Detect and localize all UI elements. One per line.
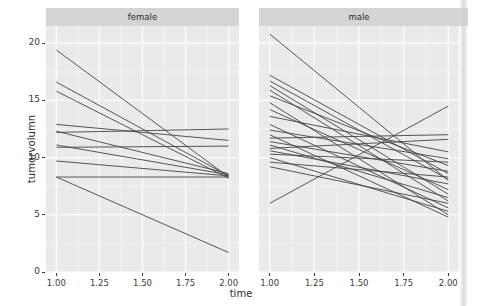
right-edge-artifact-strip — [459, 8, 468, 26]
y-tick-mark — [42, 157, 45, 158]
y-tick-label: 20 — [16, 38, 40, 47]
facet-strip-male: male — [259, 8, 459, 26]
x-tick-label: 2.00 — [214, 278, 244, 288]
panel-male — [259, 26, 459, 272]
panel-female — [46, 26, 239, 272]
y-tick-mark — [42, 272, 45, 273]
x-tick-label: 1.00 — [255, 278, 285, 288]
x-tick-label: 1.75 — [389, 278, 419, 288]
y-tick-label: 5 — [16, 210, 40, 219]
x-tick-mark — [359, 273, 360, 276]
x-tick-mark — [56, 273, 57, 276]
x-tick-mark — [228, 273, 229, 276]
y-tick-label: 10 — [16, 153, 40, 162]
right-edge-artifact — [459, 0, 468, 306]
series-line — [56, 146, 228, 147]
x-tick-label: 1.25 — [299, 278, 329, 288]
plot-root: tumorvolumn 05101520 female male 1.001.2… — [0, 0, 482, 306]
x-tick-mark — [314, 273, 315, 276]
y-tick-mark — [42, 214, 45, 215]
panel-lines-male — [259, 26, 459, 272]
facet-strip-female-label: female — [128, 12, 157, 22]
facet-strip-male-label: male — [348, 12, 369, 22]
x-tick-mark — [99, 273, 100, 276]
x-tick-mark — [269, 273, 270, 276]
y-tick-mark — [42, 100, 45, 101]
y-tick-label: 0 — [16, 267, 40, 276]
x-tick-mark — [185, 273, 186, 276]
x-tick-label: 1.50 — [128, 278, 158, 288]
y-tick-mark — [42, 43, 45, 44]
x-tick-label: 1.75 — [171, 278, 201, 288]
facet-strip-female: female — [46, 8, 239, 26]
x-tick-label: 1.00 — [41, 278, 71, 288]
x-axis-title: time — [0, 288, 482, 299]
x-tick-label: 1.25 — [84, 278, 114, 288]
x-tick-label: 1.50 — [344, 278, 374, 288]
x-tick-mark — [448, 273, 449, 276]
y-tick-label: 15 — [16, 95, 40, 104]
x-tick-mark — [142, 273, 143, 276]
panel-lines-female — [46, 26, 239, 272]
x-tick-mark — [403, 273, 404, 276]
y-axis-tick-labels: 05101520 — [12, 0, 40, 306]
